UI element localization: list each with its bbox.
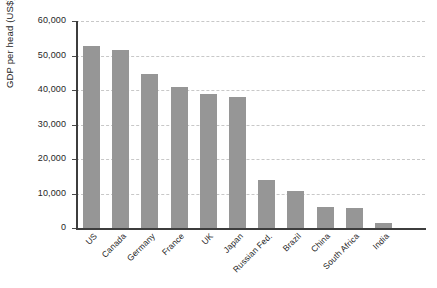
bar	[317, 207, 334, 228]
y-axis-tick-label: 60,000	[20, 16, 66, 25]
bar	[171, 87, 188, 228]
y-axis-tick-label: 20,000	[20, 154, 66, 163]
plot-area	[76, 21, 425, 228]
bar	[141, 74, 158, 228]
y-axis-tick-label: 50,000	[20, 51, 66, 60]
bars-group	[76, 21, 425, 228]
x-axis-line	[76, 228, 426, 230]
y-axis-tick-labels: 010,00020,00030,00040,00050,00060,000	[18, 0, 66, 288]
x-axis-tick-label-text: China	[309, 231, 332, 254]
x-axis-tick-label-text: Japan	[221, 231, 245, 255]
bar	[229, 97, 246, 228]
bar	[287, 191, 304, 228]
x-axis-tick-label-text: Brazil	[280, 231, 303, 254]
bar	[112, 50, 129, 228]
y-axis-tick-label: 0	[20, 223, 66, 232]
bar	[200, 94, 217, 228]
x-axis-tick-label-text: US	[83, 231, 99, 247]
y-axis-tick-label: 10,000	[20, 189, 66, 198]
x-axis-tick-label-text: UK	[200, 231, 216, 247]
bar	[346, 208, 363, 228]
y-axis-tick-label: 30,000	[20, 120, 66, 129]
y-axis-tick-label: 40,000	[20, 85, 66, 94]
x-axis-tick-label-text: France	[160, 231, 186, 257]
x-axis-tick-label-text: Canada	[99, 231, 128, 260]
y-axis-line	[76, 21, 78, 229]
y-axis-title: GDP per head (US$)	[4, 0, 18, 88]
bar	[83, 46, 100, 228]
bar	[258, 180, 275, 228]
bar-chart: GDP per head (US$) 010,00020,00030,00040…	[0, 0, 437, 288]
x-axis-tick-label-text: India	[370, 231, 390, 251]
x-axis-tick-labels: USCanadaGermanyFranceUKJapanRussian Fed.…	[76, 231, 425, 288]
